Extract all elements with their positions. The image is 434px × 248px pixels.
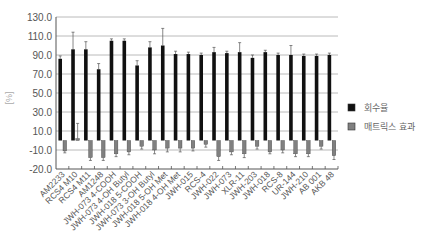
recovery-bar <box>328 55 332 141</box>
recovery-bar <box>97 69 101 140</box>
y-tick-label: 50.0 <box>33 88 53 99</box>
y-axis-ticks: 130.0110.090.070.050.030.010.0-10.0-20.0 <box>27 12 52 175</box>
recovery-bar <box>289 55 293 141</box>
recovery-bar <box>251 58 255 141</box>
matrix-effect-bar <box>153 141 157 151</box>
y-tick-label: 130.0 <box>27 12 52 23</box>
legend-label-recovery: 회수율 <box>364 103 388 113</box>
bars <box>58 28 335 160</box>
y-tick-label: -20.0 <box>29 164 52 175</box>
recovery-bar <box>264 52 268 140</box>
recovery-bar <box>161 46 165 141</box>
matrix-effect-bar <box>204 141 208 145</box>
y-tick-label: 10.0 <box>33 126 53 137</box>
matrix-effect-bar <box>63 141 67 151</box>
legend: 회수율 매트릭스 효과 <box>348 103 415 132</box>
matrix-effect-bar <box>281 141 285 151</box>
recovery-bar <box>148 47 152 140</box>
recovery-bar <box>135 65 139 140</box>
legend-label-matrix-effect: 매트릭스 효과 <box>364 121 415 132</box>
chart-container: 130.0110.090.070.050.030.010.0-10.0-20.0… <box>0 0 434 248</box>
legend-item-matrix-effect: 매트릭스 효과 <box>348 121 415 132</box>
y-tick-label: 70.0 <box>33 69 53 80</box>
y-tick-label: 110.0 <box>28 31 53 42</box>
matrix-effect-bar <box>307 141 311 154</box>
matrix-effect-bar <box>268 141 272 152</box>
matrix-effect-bar <box>230 141 234 152</box>
legend-item-recovery: 회수율 <box>348 103 388 113</box>
recovery-bar <box>238 52 242 140</box>
matrix-effect-bar <box>166 141 170 149</box>
matrix-effect-bar <box>178 141 182 149</box>
matrix-effect-bar <box>101 141 105 158</box>
recovery-bar <box>199 55 203 141</box>
recovery-bar <box>110 41 114 141</box>
y-axis-title: [%] <box>4 91 14 104</box>
legend-swatch-matrix-effect-icon <box>348 123 355 130</box>
matrix-effect-bar <box>76 139 80 141</box>
recovery-bar <box>84 49 88 140</box>
recovery-bar <box>315 56 319 141</box>
x-axis-labels: AM2233RCS4 M10RCS4 M11AM1248JWH-073 4-CO… <box>37 169 336 233</box>
matrix-effect-bar <box>191 141 195 149</box>
matrix-effect-bar <box>89 141 93 158</box>
bar-chart: 130.0110.090.070.050.030.010.0-10.0-20.0… <box>0 0 434 248</box>
y-tick-label: 90.0 <box>33 50 53 61</box>
matrix-effect-bar <box>127 141 131 152</box>
y-tick-label: 30.0 <box>33 107 53 118</box>
recovery-bar <box>302 56 306 141</box>
legend-swatch-recovery-icon <box>348 104 355 111</box>
recovery-bar <box>187 54 191 140</box>
recovery-bar <box>225 53 229 140</box>
matrix-effect-bar <box>332 141 336 156</box>
matrix-effect-bar <box>255 141 259 147</box>
matrix-effect-bar <box>319 141 323 147</box>
recovery-bar <box>212 52 216 140</box>
matrix-effect-bar <box>114 141 118 154</box>
matrix-effect-bar <box>140 141 144 147</box>
recovery-bar <box>58 59 62 141</box>
matrix-effect-bar <box>242 141 246 154</box>
recovery-bar <box>123 41 127 141</box>
recovery-bar <box>71 49 75 140</box>
matrix-effect-bar <box>294 141 298 154</box>
matrix-effect-bar <box>217 141 221 157</box>
recovery-bar <box>174 54 178 140</box>
recovery-bar <box>276 55 280 141</box>
y-tick-label: -10.0 <box>29 145 52 156</box>
